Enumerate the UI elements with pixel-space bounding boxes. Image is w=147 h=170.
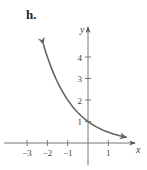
x-tick-label: −1 <box>63 148 73 158</box>
y-tick-label: 2 <box>78 96 83 106</box>
y-tick-label: 4 <box>78 53 83 63</box>
x-tick-label: 1 <box>106 148 111 158</box>
x-axis-label: x <box>135 144 141 155</box>
x-tick-label: −2 <box>43 148 53 158</box>
y-ticks: 1234 <box>78 53 92 128</box>
y-tick-label: 3 <box>78 74 83 84</box>
y-axis-label: y <box>79 24 85 35</box>
x-tick-label: −3 <box>22 148 32 158</box>
exponential-curve <box>43 44 126 137</box>
graph: −3−2−11 1234 x y <box>0 0 147 170</box>
y-tick-label: 1 <box>78 117 83 127</box>
